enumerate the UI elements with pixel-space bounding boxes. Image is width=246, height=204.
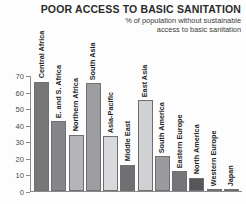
y-tick-label: 70 bbox=[16, 72, 24, 81]
bar[interactable]: Western Europe bbox=[207, 189, 222, 191]
y-tick-mark bbox=[26, 76, 30, 77]
y-tick-mark bbox=[26, 93, 30, 94]
y-tick-label: 30 bbox=[16, 138, 24, 147]
bar[interactable]: South America bbox=[155, 156, 170, 191]
y-tick-mark bbox=[26, 126, 30, 127]
y-tick-label: 10 bbox=[16, 171, 24, 180]
bar-category-label: Western Europe bbox=[210, 130, 217, 186]
bar[interactable]: Northern Africa bbox=[69, 135, 84, 191]
bar-series: Central AfricaE. and S. AfricaNorthern A… bbox=[33, 75, 240, 191]
bar-category-label: North America bbox=[193, 125, 200, 175]
y-tick-mark bbox=[26, 109, 30, 110]
chart-subtitle: % of population without sustainable acce… bbox=[0, 16, 241, 34]
y-tick-label: 50 bbox=[16, 105, 24, 114]
bar[interactable]: E. and S. Africa bbox=[51, 121, 66, 191]
chart-figure: POOR ACCESS TO BASIC SANITATION % of pop… bbox=[0, 0, 246, 204]
bar[interactable]: Japan bbox=[224, 189, 239, 191]
bar-category-label: Middle East bbox=[124, 121, 131, 162]
y-tick-label: 60 bbox=[16, 88, 24, 97]
bar-slot: E. and S. Africa bbox=[50, 75, 67, 191]
chart-subtitle-line-2: access to basic sanitation bbox=[0, 25, 241, 34]
bar-slot: Eastern Europe bbox=[171, 75, 188, 191]
y-tick-mark bbox=[26, 175, 30, 176]
bar-slot: Asia-Pacific bbox=[102, 75, 119, 191]
bar-category-label: Japan bbox=[228, 165, 235, 186]
bar-slot: South America bbox=[154, 75, 171, 191]
bar-slot: South Asia bbox=[85, 75, 102, 191]
page-title: POOR ACCESS TO BASIC SANITATION bbox=[0, 3, 241, 15]
bar[interactable]: North America bbox=[189, 178, 204, 191]
bar-category-label: Asia-Pacific bbox=[107, 92, 114, 133]
bar[interactable]: South Asia bbox=[86, 83, 101, 191]
bar-slot: Middle East bbox=[119, 75, 136, 191]
y-tick-mark bbox=[26, 142, 30, 143]
bar[interactable]: Middle East bbox=[120, 165, 135, 192]
plot-area: 706050403020100 Central AfricaE. and S. … bbox=[30, 76, 240, 192]
bar-category-label: South America bbox=[159, 102, 166, 153]
title-block: POOR ACCESS TO BASIC SANITATION % of pop… bbox=[0, 3, 241, 34]
y-tick-mark bbox=[26, 159, 30, 160]
x-axis-line bbox=[30, 191, 242, 192]
bar-category-label: East Asia bbox=[141, 64, 148, 97]
bar-category-label: Northern Africa bbox=[72, 78, 79, 131]
y-tick-label: 20 bbox=[16, 154, 24, 163]
bar[interactable]: Asia-Pacific bbox=[103, 136, 118, 191]
bar-slot: North America bbox=[188, 75, 205, 191]
bar-category-label: Eastern Europe bbox=[176, 114, 183, 168]
y-tick-label: 0 bbox=[20, 188, 24, 197]
y-tick-label: 40 bbox=[16, 121, 24, 130]
bar-slot: Japan bbox=[223, 75, 240, 191]
bar-slot: Northern Africa bbox=[68, 75, 85, 191]
bar-category-label: South Asia bbox=[90, 42, 97, 80]
y-axis-line bbox=[30, 76, 31, 192]
bar[interactable]: Central Africa bbox=[34, 82, 49, 191]
bar-slot: East Asia bbox=[137, 75, 154, 191]
bar[interactable]: East Asia bbox=[138, 100, 153, 191]
bar-slot: Central Africa bbox=[33, 75, 50, 191]
bar-slot: Western Europe bbox=[206, 75, 223, 191]
bar-category-label: Central Africa bbox=[38, 31, 45, 79]
bar[interactable]: Eastern Europe bbox=[172, 171, 187, 191]
bar-category-label: E. and S. Africa bbox=[55, 65, 62, 118]
chart-subtitle-line-1: % of population without sustainable bbox=[0, 16, 241, 25]
y-tick-mark bbox=[26, 192, 30, 193]
